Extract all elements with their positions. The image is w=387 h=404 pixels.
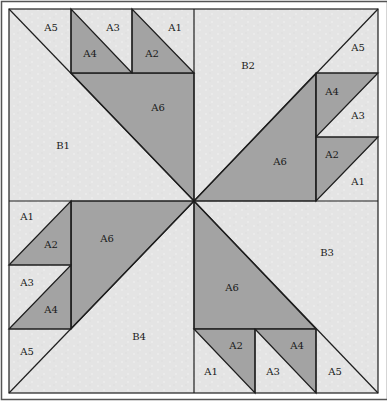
label-tr-a6: A6 <box>272 156 287 167</box>
label-tl-a2: A2 <box>144 48 159 59</box>
label-br-a4: A4 <box>289 340 304 351</box>
label-tr-a4: A4 <box>324 86 339 97</box>
label-br-a6: A6 <box>224 282 239 293</box>
label-tl-a1: A1 <box>167 22 182 33</box>
label-tl-b1: B1 <box>56 140 70 151</box>
label-tr-a5: A5 <box>350 42 365 53</box>
label-bl-a3: A3 <box>19 277 34 288</box>
label-br-b3: B3 <box>320 247 334 258</box>
label-br-a5: A5 <box>327 366 342 377</box>
label-br-a2: A2 <box>228 340 243 351</box>
label-bl-a2: A2 <box>43 239 58 250</box>
seam-lines <box>9 9 378 393</box>
label-bl-b4: B4 <box>132 331 146 342</box>
label-tr-b2: B2 <box>241 60 255 71</box>
label-tr-a3: A3 <box>350 110 365 121</box>
label-tl-a3: A3 <box>105 22 120 33</box>
label-tr-a1: A1 <box>350 176 365 187</box>
quilt-block-diagram: A5 A3 A1 A4 A2 A6 B1 B2 A5 A4 A3 A2 A1 A… <box>0 0 387 404</box>
label-br-a3: A3 <box>265 366 280 377</box>
label-tl-a5: A5 <box>43 22 58 33</box>
label-bl-a5: A5 <box>19 346 34 357</box>
label-tr-a2: A2 <box>324 149 339 160</box>
label-bl-a1: A1 <box>19 211 34 222</box>
label-br-a1: A1 <box>203 366 218 377</box>
label-tl-a4: A4 <box>82 48 97 59</box>
label-tl-a6: A6 <box>150 102 165 113</box>
label-bl-a6: A6 <box>99 233 114 244</box>
label-bl-a4: A4 <box>43 304 58 315</box>
